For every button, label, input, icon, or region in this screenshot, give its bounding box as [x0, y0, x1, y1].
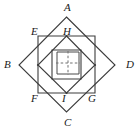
vertex-dot-right: [94, 64, 96, 66]
mid-diamond: [38, 36, 95, 93]
vertex-label-e: E: [31, 26, 38, 37]
vertex-label-d: D: [126, 59, 134, 70]
vertex-label-f: F: [31, 93, 38, 104]
geometry-diagram: [0, 0, 140, 131]
vertex-label-a: A: [64, 2, 71, 13]
vertex-label-h: H: [63, 26, 71, 37]
vertex-label-c: C: [64, 117, 71, 128]
square-efgh: [38, 36, 95, 93]
vertex-label-b: B: [4, 59, 11, 70]
vertex-dot-left: [37, 64, 39, 66]
vertex-label-i: I: [62, 93, 66, 104]
inner-square: [52, 50, 81, 79]
vertex-label-g: G: [88, 93, 96, 104]
geometry-figure: A B C D E H F I G: [0, 0, 140, 131]
